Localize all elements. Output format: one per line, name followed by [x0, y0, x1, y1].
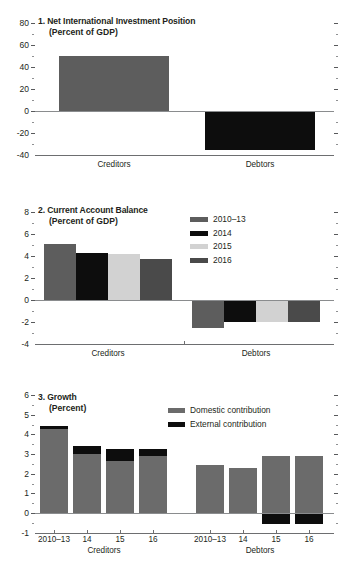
panel1-ytick-label: 20: [5, 85, 29, 94]
legend-label: 2016: [213, 255, 232, 266]
panel1-ytick-label: -20: [5, 129, 29, 138]
panel2-ytick-minor: [32, 311, 34, 312]
panel1-ytick-major: [31, 89, 35, 90]
panel2-right-tick-major: [334, 212, 338, 213]
legend-label: 2015: [213, 241, 232, 252]
panel3-zero-line: [35, 513, 334, 514]
panel1-right-tick-major: [334, 67, 338, 68]
panel1-right-tick-minor: [336, 100, 338, 101]
panel2-xlabel-creditors: Creditors: [68, 349, 148, 358]
panel1-ytick-label: -40: [5, 151, 29, 160]
panel3-xtick: [153, 530, 154, 533]
panel2-ytick-label: -4: [5, 340, 29, 349]
legend-swatch-2010-13: [190, 217, 208, 222]
panel3-bar-debtors-2010-13-domestic: [196, 465, 224, 513]
legend-swatch-domestic-contribution: [168, 408, 185, 413]
panel2-ytick-label: -2: [5, 318, 29, 327]
panel2-subtitle: (Percent of GDP): [49, 216, 118, 227]
legend-swatch-2016: [190, 258, 208, 263]
panel-net-international-investment-position: 1. Net International Investment Position…: [0, 0, 346, 190]
panel2-ytick-label: 6: [5, 230, 29, 239]
panel1-ytick-major: [31, 67, 35, 68]
panel2-title: 2. Current Account Balance: [38, 205, 148, 216]
panel2-ytick-minor: [32, 267, 34, 268]
panel1-ytick-minor: [32, 56, 34, 57]
panel3-ytick-label: 3: [5, 450, 29, 459]
panel3-bar-creditors-2016-domestic: [139, 455, 167, 513]
panel3-right-tick-minor: [336, 523, 338, 524]
legend-label: Domestic contribution: [190, 405, 271, 416]
legend-label: 2014: [213, 228, 232, 239]
panel1-title: 1. Net International Investment Position: [38, 16, 195, 27]
panel3-bar-debtors-2015-external: [262, 513, 290, 524]
panel3-bar-creditors-2014-external: [73, 446, 101, 454]
panel2-right-tick-major: [334, 278, 338, 279]
panel3-ytick-major: [31, 454, 35, 455]
panel2-right-tick-minor: [336, 311, 338, 312]
panel3-ytick-label: 4: [5, 430, 29, 439]
panel1-ytick-minor: [32, 100, 34, 101]
panel2-ytick-major: [31, 278, 35, 279]
panel1-right-tick-minor: [336, 56, 338, 57]
panel2-xlabel-debtors: Debtors: [216, 349, 296, 358]
panel3-bar-creditors-2014-domestic: [73, 453, 101, 513]
panel1-right-tick-minor: [336, 122, 338, 123]
panel2-ytick-label: 8: [5, 208, 29, 217]
panel2-ytick-label: 2: [5, 274, 29, 283]
panel1-right-tick-minor: [336, 34, 338, 35]
panel-current-account-balance: 2. Current Account Balance (Percent of G…: [0, 190, 346, 380]
panel1-right-tick-minor: [336, 144, 338, 145]
panel3-ytick-minor: [32, 425, 34, 426]
panel1-bar-debtors: [205, 111, 315, 150]
panel2-ytick-label: 4: [5, 252, 29, 260]
panel3-xtick: [120, 530, 121, 533]
panel3-xtick: [87, 530, 88, 533]
panel3-ytick-minor: [32, 464, 34, 465]
panel1-xlabel-creditors: Creditors: [74, 160, 154, 169]
panel3-bar-debtors-2014-domestic: [229, 468, 257, 513]
panel2-xtick-center: [184, 341, 185, 345]
panel3-bar-debtors-2015-domestic: [262, 456, 290, 513]
panel3-right-tick-major: [334, 415, 338, 416]
panel1-ytick-label: 80: [5, 19, 29, 28]
panel3-xtick: [243, 530, 244, 533]
panel1-ytick-minor: [32, 144, 34, 145]
panel2-zero-line: [35, 300, 334, 301]
panel1-ytick-label: 60: [5, 41, 29, 50]
panel2-right-tick-minor: [336, 289, 338, 290]
panel1-ytick-label: 40: [5, 63, 29, 72]
panel3-ytick-minor: [32, 484, 34, 485]
panel3-right-tick-major: [334, 454, 338, 455]
panel3-ytick-label: -1: [5, 529, 29, 538]
panel1-subtitle: (Percent of GDP): [49, 27, 118, 38]
panel3-subtitle: (Percent): [49, 403, 86, 414]
panel3-right-tick-major: [334, 395, 338, 396]
panel2-bar-creditors-2010-13: [44, 244, 76, 300]
panel2-right-tick-major: [334, 322, 338, 323]
panel3-right-tick-major: [334, 474, 338, 475]
panel2-right-tick-major: [334, 256, 338, 257]
panel2-right-tick-minor: [336, 245, 338, 246]
panel3-ytick-major: [31, 434, 35, 435]
panel1-baseline: [35, 155, 334, 156]
legend-label: External contribution: [190, 419, 266, 430]
panel2-ytick-major: [31, 322, 35, 323]
panel3-xtick: [276, 530, 277, 533]
panel1-ytick-major: [31, 23, 35, 24]
panel2-ytick-minor: [32, 289, 34, 290]
panel3-ytick-label: 1: [5, 489, 29, 498]
panel1-ytick-label: 0: [5, 107, 29, 116]
panel1-right-tick-major: [334, 23, 338, 24]
panel3-xlabel: 14: [228, 535, 258, 544]
panel1-ytick-major: [31, 133, 35, 134]
panel2-ytick-minor: [32, 333, 34, 334]
panel3-group-label-debtors: Debtors: [220, 546, 300, 555]
panel2-right-tick-major: [334, 234, 338, 235]
panel3-right-tick-minor: [336, 484, 338, 485]
panel1-right-tick-major: [334, 89, 338, 90]
panel2-bar-debtors-2014: [224, 300, 256, 322]
panel3-xtick: [210, 530, 211, 533]
legend-label: 2010–13: [213, 214, 246, 225]
panel2-bar-creditors-2016: [140, 259, 172, 300]
panel3-bar-creditors-2015-domestic: [106, 460, 134, 513]
